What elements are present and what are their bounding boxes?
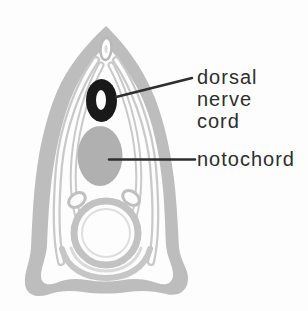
label-dorsal-nerve-cord-line1: dorsal xyxy=(197,66,257,88)
label-dorsal-nerve-cord: dorsal nerve cord xyxy=(197,66,257,132)
nerve-cord-central-canal-shape xyxy=(96,90,106,110)
label-notochord: notochord xyxy=(197,148,295,170)
label-dorsal-nerve-cord-line3: cord xyxy=(197,110,257,132)
notochord-shape xyxy=(78,126,123,186)
figure-canvas: dorsal nerve cord notochord xyxy=(0,0,308,311)
label-dorsal-nerve-cord-line2: nerve xyxy=(197,88,257,110)
dorsal-fin-ray-speckle xyxy=(105,45,108,53)
gut-circle-shape xyxy=(74,201,138,265)
